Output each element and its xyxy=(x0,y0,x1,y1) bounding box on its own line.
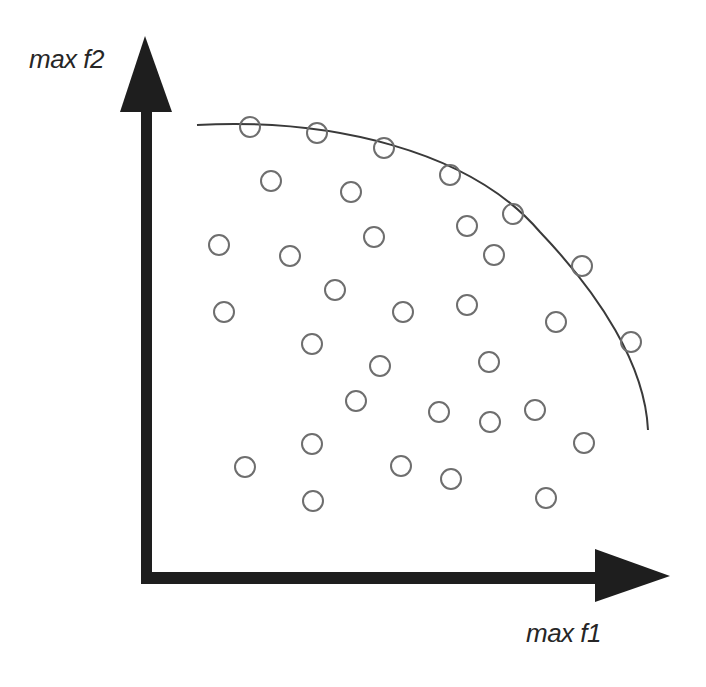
pareto-front-points xyxy=(240,117,641,352)
x-axis-line xyxy=(141,572,599,584)
solution-point xyxy=(280,246,300,266)
y-axis-line xyxy=(141,108,152,584)
solution-point xyxy=(429,402,449,422)
y-axis-arrow-icon xyxy=(120,36,172,112)
y-axis-label: max f2 xyxy=(29,44,104,75)
solution-point xyxy=(391,456,411,476)
solution-point xyxy=(536,488,556,508)
solution-point xyxy=(346,391,366,411)
pareto-optimal-point xyxy=(503,204,523,224)
pareto-optimal-point xyxy=(240,117,260,137)
x-axis-label: max f1 xyxy=(526,618,601,649)
pareto-optimal-point xyxy=(572,256,592,276)
pareto-diagram xyxy=(0,0,706,687)
solution-point xyxy=(479,352,499,372)
solution-point xyxy=(393,302,413,322)
solution-point xyxy=(303,491,323,511)
solution-point xyxy=(325,280,345,300)
solution-point xyxy=(546,312,566,332)
pareto-optimal-point xyxy=(440,165,460,185)
solution-point xyxy=(484,245,504,265)
solution-point xyxy=(209,235,229,255)
solution-point xyxy=(441,469,461,489)
solution-point xyxy=(214,302,234,322)
solution-point xyxy=(457,295,477,315)
solution-point xyxy=(480,412,500,432)
solution-point xyxy=(364,227,384,247)
solution-point xyxy=(235,457,255,477)
solution-point xyxy=(457,216,477,236)
x-axis-arrow-icon xyxy=(595,549,670,602)
pareto-front-curve xyxy=(197,124,648,430)
pareto-optimal-point xyxy=(374,138,394,158)
solution-point xyxy=(370,356,390,376)
solution-point xyxy=(302,434,322,454)
solution-point xyxy=(574,433,594,453)
pareto-optimal-point xyxy=(307,123,327,143)
pareto-optimal-point xyxy=(621,332,641,352)
solution-point xyxy=(341,182,361,202)
solution-point xyxy=(525,400,545,420)
solution-point xyxy=(302,334,322,354)
solution-point xyxy=(261,171,281,191)
dominated-points xyxy=(209,171,594,511)
